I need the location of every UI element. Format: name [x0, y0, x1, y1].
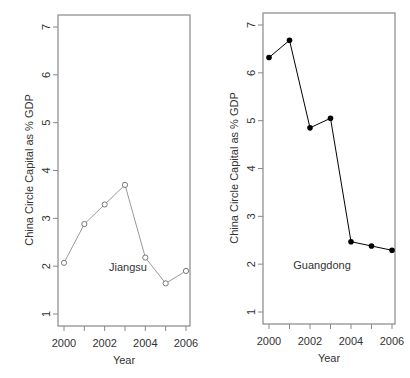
x-tick-label: 2004: [339, 335, 363, 347]
x-axis: 2000200220042006: [257, 324, 404, 347]
x-axis-title: Year: [318, 352, 341, 364]
chart-panel-guangdong: 12345672000200220042006YearChina Circle …: [228, 13, 404, 364]
y-tick-label: 1: [40, 311, 52, 317]
y-tick-label: 6: [40, 72, 52, 78]
data-point: [102, 202, 107, 207]
x-tick-label: 2002: [92, 337, 116, 349]
y-tick-label: 2: [40, 263, 52, 269]
y-tick-label: 3: [245, 213, 257, 219]
data-point: [122, 182, 127, 187]
y-tick-label: 4: [245, 165, 257, 171]
y-tick-label: 5: [40, 120, 52, 126]
data-point: [61, 260, 66, 265]
plot-frame: [263, 13, 395, 324]
chart-panel-jiangsu: 12345672000200220042006YearChina Circle …: [23, 15, 198, 366]
y-tick-label: 3: [40, 215, 52, 221]
y-axis: 1234567: [245, 22, 263, 315]
data-point: [82, 221, 87, 226]
x-tick-label: 2002: [298, 335, 322, 347]
region-annotation: Guangdong: [293, 259, 351, 271]
region-annotation: Jiangsu: [109, 261, 147, 273]
x-tick-label: 2006: [380, 335, 404, 347]
data-point: [266, 55, 272, 61]
data-point: [389, 247, 395, 253]
data-point: [183, 268, 188, 273]
y-axis: 1234567: [40, 24, 58, 317]
y-tick-label: 7: [40, 24, 52, 30]
y-axis-title: China Circle Capital as % GDP: [23, 94, 35, 246]
chart-canvas: 12345672000200220042006YearChina Circle …: [0, 0, 410, 378]
y-tick-label: 1: [245, 309, 257, 315]
x-axis: 2000200220042006: [52, 326, 198, 349]
data-point: [163, 281, 168, 286]
data-point: [287, 38, 293, 44]
data-point: [307, 125, 313, 131]
y-tick-label: 4: [40, 167, 52, 173]
plot-frame: [58, 15, 190, 326]
x-tick-label: 2004: [133, 337, 157, 349]
x-tick-label: 2000: [257, 335, 281, 347]
data-point: [369, 243, 375, 249]
x-axis-title: Year: [113, 354, 136, 366]
data-point: [348, 239, 354, 245]
y-tick-label: 5: [245, 118, 257, 124]
data-point: [143, 255, 148, 260]
series-line: [269, 40, 392, 250]
data-point: [328, 115, 334, 121]
y-tick-label: 6: [245, 70, 257, 76]
x-tick-label: 2000: [52, 337, 76, 349]
y-axis-title: China Circle Capital as % GDP: [228, 92, 240, 244]
x-tick-label: 2006: [174, 337, 198, 349]
y-tick-label: 2: [245, 261, 257, 267]
y-tick-label: 7: [245, 22, 257, 28]
